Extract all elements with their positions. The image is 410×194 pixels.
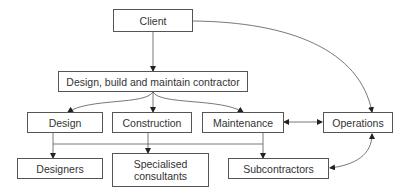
operations-node: Operations [323,112,393,133]
maintenance-label: Maintenance [213,117,273,129]
design-label: Design [49,117,82,129]
specialised-consultants-node: Specialised consultants [112,153,209,187]
construction-node: Construction [112,112,192,133]
operations-label: Operations [332,117,383,129]
construction-label: Construction [123,117,182,129]
subcontractors-label: Subcontractors [243,163,314,175]
specialised-label-line2: consultants [134,170,187,182]
designers-label: Designers [36,163,83,175]
maintenance-node: Maintenance [202,112,284,133]
contractor-node: Design, build and maintain contractor [58,71,248,92]
contractor-label: Design, build and maintain contractor [66,76,239,88]
client-node: Client [113,9,193,32]
design-node: Design [27,112,103,133]
subcontractors-node: Subcontractors [228,158,329,179]
client-label: Client [140,15,167,27]
specialised-label-line1: Specialised [134,158,188,170]
designers-node: Designers [17,158,103,179]
